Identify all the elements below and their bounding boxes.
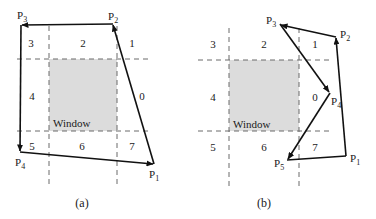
point-label-p2: P2 — [340, 28, 350, 43]
point-label-p1: P1 — [350, 152, 360, 167]
region-label-5: 5 — [29, 140, 35, 152]
region-label-3: 3 — [210, 38, 216, 50]
region-label-7: 7 — [312, 141, 318, 153]
region-label-1: 1 — [129, 37, 135, 49]
panel-b: 3 2 1 4 0 5 6 7 Window P3 P2 P4 P5 P1 (b… — [198, 14, 360, 210]
region-label-6: 6 — [261, 141, 267, 153]
window-label-b: Window — [233, 118, 270, 130]
region-label-2: 2 — [80, 37, 86, 49]
point-label-p4: P4 — [331, 95, 341, 110]
point-label-p2: P2 — [108, 10, 118, 25]
region-label-1: 1 — [312, 38, 318, 50]
region-label-3: 3 — [28, 37, 34, 49]
caption-a: (a) — [75, 196, 88, 210]
caption-b: (b) — [257, 196, 271, 210]
region-label-4: 4 — [29, 90, 35, 102]
point-label-p3: P3 — [17, 9, 27, 24]
point-label-p1: P1 — [149, 168, 159, 183]
region-label-4: 4 — [210, 91, 216, 103]
region-label-0: 0 — [139, 90, 145, 102]
point-label-p5: P5 — [274, 157, 284, 172]
point-label-p4: P4 — [15, 156, 25, 171]
panel-a: 3 2 1 4 0 5 6 7 Window P3 P2 P4 P1 (a) — [15, 9, 159, 210]
region-label-6: 6 — [79, 140, 85, 152]
region-label-0: 0 — [312, 91, 318, 103]
figure-canvas: 3 2 1 4 0 5 6 7 Window P3 P2 P4 P1 (a) 3 — [0, 0, 376, 219]
window-label-a: Window — [53, 117, 90, 129]
region-label-2: 2 — [261, 38, 267, 50]
region-label-7: 7 — [129, 140, 135, 152]
point-label-p3: P3 — [266, 14, 276, 29]
region-label-5: 5 — [210, 141, 216, 153]
